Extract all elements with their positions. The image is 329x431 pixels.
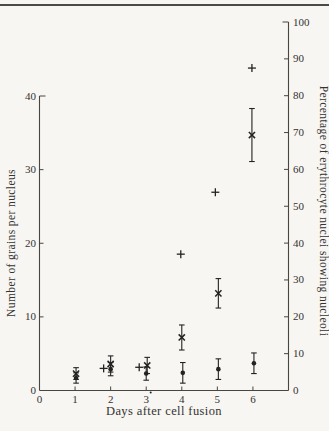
right-tick-label-40: 40 bbox=[293, 237, 305, 249]
scatter-chart: 01020304001234560102030405060708090100 N… bbox=[0, 0, 329, 431]
data-marks-layer bbox=[73, 64, 257, 383]
right-tick-label-70: 70 bbox=[293, 126, 305, 138]
dot-series-day-4-dot-marker bbox=[180, 371, 185, 376]
right-axis-title: Percentage of erythrocyte nuclei showing… bbox=[317, 86, 329, 336]
left-axis-title: Number of grains per nucleus bbox=[5, 169, 18, 317]
dot-series-day-5-dot-marker bbox=[216, 367, 221, 372]
right-tick-label-50: 50 bbox=[293, 200, 305, 212]
x-tick-label-0: 0 bbox=[37, 393, 43, 405]
axes-layer: 01020304001234560102030405060708090100 bbox=[25, 16, 310, 406]
dot-series-day-2-dot-marker bbox=[108, 367, 113, 372]
print-artifact-dot bbox=[150, 392, 152, 394]
dot-series-day-6-dot-marker bbox=[252, 361, 257, 366]
right-tick-label-30: 30 bbox=[293, 273, 305, 285]
right-tick-label-90: 90 bbox=[293, 52, 305, 64]
right-tick-label-60: 60 bbox=[293, 163, 305, 175]
left-tick-label-40: 40 bbox=[25, 90, 37, 102]
x-axis-title: Days after cell fusion bbox=[106, 404, 222, 418]
left-tick-label-20: 20 bbox=[25, 237, 37, 249]
dot-series-day-3-dot-marker bbox=[144, 371, 149, 376]
left-tick-label-0: 0 bbox=[31, 384, 37, 396]
x-tick-label-6: 6 bbox=[250, 393, 256, 405]
left-tick-label-10: 10 bbox=[25, 310, 37, 322]
right-tick-label-80: 80 bbox=[293, 89, 305, 101]
right-tick-label-20: 20 bbox=[293, 310, 305, 322]
x-tick-label-1: 1 bbox=[72, 393, 78, 405]
right-tick-label-10: 10 bbox=[293, 347, 305, 359]
left-tick-label-30: 30 bbox=[25, 163, 37, 175]
right-tick-label-0: 0 bbox=[293, 384, 299, 396]
scanned-journal-figure: 01020304001234560102030405060708090100 N… bbox=[0, 0, 329, 431]
right-tick-label-100: 100 bbox=[293, 16, 310, 28]
dot-series-day-1-dot-marker bbox=[74, 376, 79, 381]
